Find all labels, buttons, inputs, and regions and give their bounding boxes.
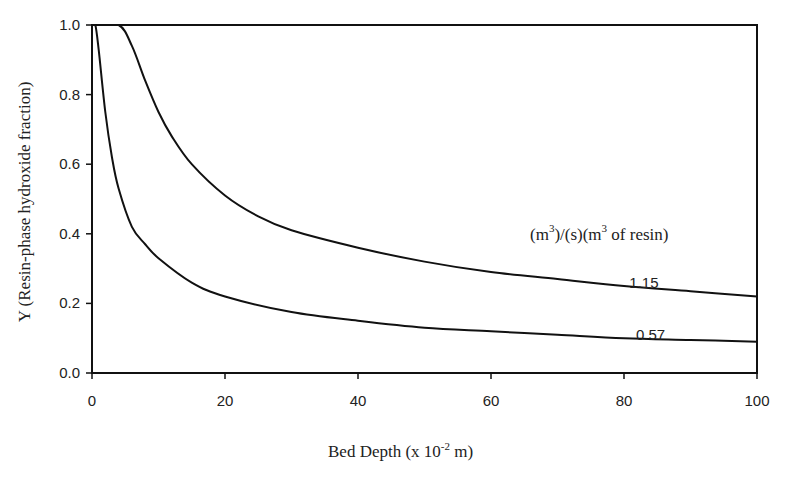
x-tick-label: 40 [350,392,367,409]
y-tick-label: 0.0 [59,364,80,381]
y-tick-label: 0.8 [59,86,80,103]
y-axis-label: Y (Resin-phase hydroxide fraction) [15,82,34,323]
x-tick-label: 60 [483,392,500,409]
chart: 020406080100 0.00.20.40.60.81.0 1.150.57… [0,0,789,479]
plot-frame [92,25,757,373]
series-line-1_15 [92,25,757,296]
x-tick-label: 0 [88,392,96,409]
y-axis-ticks: 0.00.20.40.60.81.0 [59,16,92,381]
x-axis-ticks: 020406080100 [88,373,770,409]
series-line-0_57 [92,25,757,342]
x-axis-label: Bed Depth (x 10-2 m) [328,440,473,461]
plot-border [92,25,757,373]
x-tick-label: 80 [616,392,633,409]
series-label: 1.15 [629,274,658,291]
x-tick-label: 100 [744,392,769,409]
series-labels: 1.150.57 [629,274,665,343]
x-tick-label: 20 [217,392,234,409]
y-tick-label: 1.0 [59,16,80,33]
series-label: 0.57 [636,326,665,343]
y-tick-label: 0.6 [59,155,80,172]
data-series [92,25,757,342]
legend-title: (m3)/(s)(m3 of resin) [530,222,668,244]
y-tick-label: 0.4 [59,225,80,242]
y-tick-label: 0.2 [59,294,80,311]
